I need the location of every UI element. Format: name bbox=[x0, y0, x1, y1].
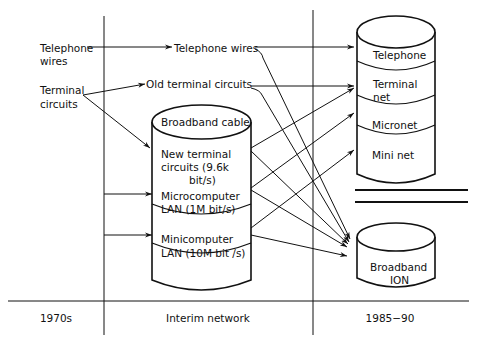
broadband-ion-cylinder: Broadband ION bbox=[357, 223, 435, 287]
equals-separator bbox=[355, 190, 468, 202]
stack-mini-net: Mini net bbox=[372, 149, 414, 161]
arrow-micro-lan-to-micronet bbox=[251, 113, 354, 188]
arrow-new-terminal-to-terminal-net bbox=[251, 88, 354, 148]
interim-old-terminal-circuits: Old terminal circuits bbox=[146, 78, 252, 90]
arrows-interim-to-1985 bbox=[251, 47, 354, 256]
source-terminal-circuits-line2: circuits bbox=[40, 98, 78, 110]
broadband-cable-cylinder: Broadband cable New terminal circuits (9… bbox=[152, 105, 251, 290]
stack-terminal-net-line1: Terminal bbox=[372, 78, 417, 90]
segment-microcomputer-lan-line1: Microcomputer bbox=[161, 190, 241, 202]
segment-minicomputer-lan-line2: LAN (10M bit /s) bbox=[161, 247, 245, 259]
arrow-to-old-terminal bbox=[83, 84, 145, 95]
broadband-ion-line2: ION bbox=[390, 274, 409, 286]
target-network-stack-cylinder: Telephone Terminal net Micronet Mini net bbox=[357, 16, 435, 183]
interim-telephone-wires: Telephone wires bbox=[173, 42, 258, 54]
period-label-1985-90: 1985−90 bbox=[366, 312, 415, 324]
segment-microcomputer-lan-line2: LAN (1M bit/s) bbox=[161, 203, 235, 215]
stack-telephone: Telephone bbox=[372, 49, 426, 61]
stack-terminal-net-line2: net bbox=[373, 91, 390, 103]
source-telephone-wires-line2: wires bbox=[40, 55, 68, 67]
stack-micronet: Micronet bbox=[372, 119, 418, 131]
source-terminal-circuits-line1: Terminal bbox=[39, 84, 84, 96]
segment-new-terminal-line2: circuits (9.6k bbox=[161, 161, 230, 173]
arrow-to-new-terminal bbox=[83, 95, 150, 148]
broadband-cable-title: Broadband cable bbox=[161, 116, 250, 128]
period-label-1970s: 1970s bbox=[40, 312, 72, 324]
segment-minicomputer-lan-line1: Minicomputer bbox=[161, 233, 234, 245]
broadband-ion-line1: Broadband bbox=[370, 261, 427, 273]
arrow-telephone-to-ion bbox=[255, 49, 350, 239]
period-label-interim: Interim network bbox=[166, 312, 251, 324]
segment-new-terminal-line3: bit/s) bbox=[189, 174, 216, 186]
segment-new-terminal-line1: New terminal bbox=[161, 148, 231, 160]
network-evolution-diagram: 1970s Interim network 1985−90 Telephone … bbox=[0, 0, 477, 347]
source-telephone-wires-line1: Telephone bbox=[39, 42, 93, 54]
